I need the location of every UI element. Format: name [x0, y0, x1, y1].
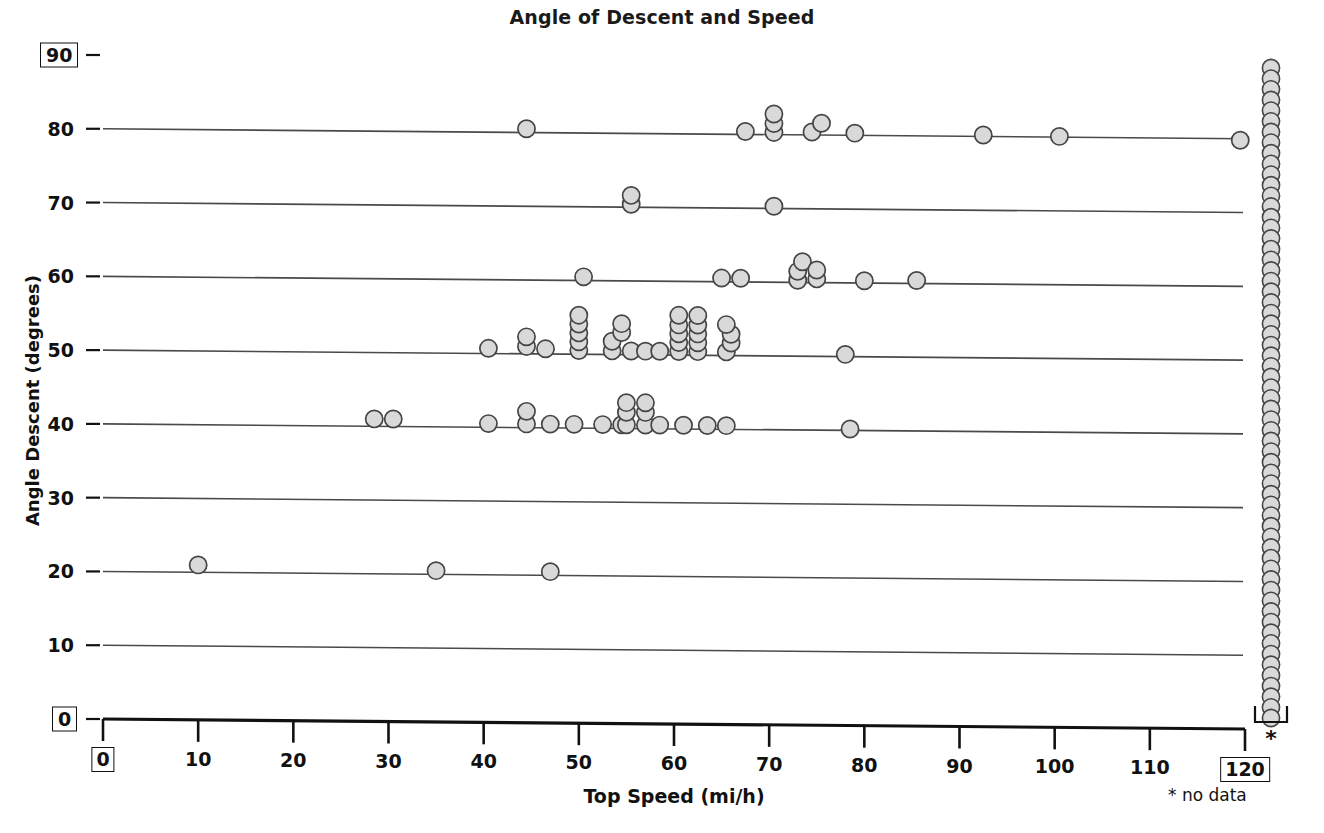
data-point	[190, 556, 207, 573]
no-data-point-group	[1262, 59, 1279, 726]
gridline-20	[103, 571, 1243, 581]
data-point	[651, 343, 668, 360]
x-tick-label-50: 50	[544, 751, 614, 773]
gridline-60	[103, 276, 1243, 286]
x-tick-label-30: 30	[354, 750, 424, 772]
data-point	[718, 417, 735, 434]
data-point	[575, 268, 592, 285]
no-data-legend: * no data	[1168, 785, 1247, 805]
x-tick-label-10: 10	[163, 748, 233, 770]
data-point	[813, 115, 830, 132]
data-point-group	[190, 105, 1249, 580]
y-tick-label-50: 50	[22, 339, 74, 361]
x-tick-label-110: 110	[1115, 756, 1185, 778]
y-tick-label-80: 80	[22, 118, 74, 140]
data-point	[713, 269, 730, 286]
data-point	[565, 416, 582, 433]
x-tick-label-20: 20	[258, 749, 328, 771]
data-point	[385, 410, 402, 427]
data-point	[480, 340, 497, 357]
x-tick-label-70: 70	[734, 753, 804, 775]
y-tick-label-60: 60	[22, 265, 74, 287]
x-tick-label-0: 0	[91, 747, 114, 772]
data-point	[570, 307, 587, 324]
plot-area	[0, 0, 1324, 833]
data-point	[841, 420, 858, 437]
data-point	[908, 272, 925, 289]
data-point	[837, 346, 854, 363]
data-point	[518, 120, 535, 137]
no-data-point	[1262, 709, 1279, 726]
no-data-asterisk: *	[1265, 728, 1277, 750]
data-point	[732, 270, 749, 287]
gridline-80	[103, 129, 1243, 139]
y-tick-label-90: 90	[40, 43, 78, 68]
x-tick-label-120: 120	[1220, 757, 1270, 782]
data-point	[689, 307, 706, 324]
y-tick-label-30: 30	[22, 487, 74, 509]
x-tick-label-60: 60	[639, 752, 709, 774]
data-point	[975, 126, 992, 143]
data-point	[623, 187, 640, 204]
data-point	[366, 410, 383, 427]
data-point	[808, 261, 825, 278]
gridline-10	[103, 645, 1243, 655]
data-point	[846, 125, 863, 142]
data-point	[427, 562, 444, 579]
data-point	[518, 328, 535, 345]
x-tick-label-40: 40	[449, 750, 519, 772]
data-point	[651, 416, 668, 433]
y-tick-label-40: 40	[22, 413, 74, 435]
data-point	[856, 272, 873, 289]
data-point	[765, 105, 782, 122]
y-tick-label-10: 10	[22, 634, 74, 656]
data-point	[537, 340, 554, 357]
gridlines	[103, 129, 1243, 655]
data-point	[765, 198, 782, 215]
data-point	[542, 563, 559, 580]
gridline-30	[103, 498, 1243, 508]
x-tick-label-90: 90	[925, 755, 995, 777]
gridline-40	[103, 424, 1243, 434]
data-point	[518, 403, 535, 420]
data-point	[480, 415, 497, 432]
data-point	[594, 416, 611, 433]
data-point	[670, 307, 687, 324]
y-tick-label-0: 0	[52, 707, 77, 732]
data-point	[542, 416, 559, 433]
y-tick-label-20: 20	[22, 560, 74, 582]
data-point	[618, 394, 635, 411]
data-point	[1051, 128, 1068, 145]
x-tick-label-100: 100	[1020, 755, 1090, 777]
data-point	[675, 417, 692, 434]
data-point	[637, 394, 654, 411]
x-tick-label-80: 80	[829, 754, 899, 776]
y-tick-label-70: 70	[22, 192, 74, 214]
data-point	[1232, 132, 1249, 149]
data-point	[613, 315, 630, 332]
data-point	[718, 316, 735, 333]
chart-page: Angle of Descent and Speed Angle Descent…	[0, 0, 1324, 833]
data-point	[699, 417, 716, 434]
data-point	[737, 123, 754, 140]
gridline-70	[103, 203, 1243, 213]
